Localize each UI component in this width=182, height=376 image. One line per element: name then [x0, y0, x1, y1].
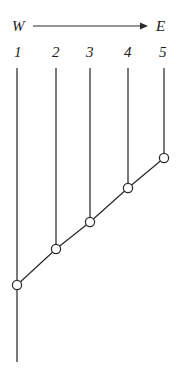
node-4	[123, 183, 132, 192]
node-3	[85, 217, 94, 226]
node-2	[51, 244, 60, 253]
taxon-labels: 1 2 3 4 5	[14, 44, 167, 60]
right-arrow-icon	[140, 23, 148, 30]
axis-west-label: W	[12, 18, 26, 34]
node-1	[12, 280, 21, 289]
node-5	[159, 153, 168, 162]
direction-axis: W E	[12, 18, 165, 34]
cladogram-canvas: E --> W E 1 2 3 4 5	[0, 0, 182, 376]
taxon-label-4: 4	[124, 44, 132, 60]
taxon-label-5: 5	[159, 44, 167, 60]
cladogram-figure: E --> W E 1 2 3 4 5	[0, 0, 182, 376]
taxon-label-3: 3	[85, 44, 94, 60]
taxon-label-2: 2	[52, 44, 60, 60]
taxon-label-1: 1	[14, 44, 22, 60]
axis-east-label: E	[155, 18, 165, 34]
